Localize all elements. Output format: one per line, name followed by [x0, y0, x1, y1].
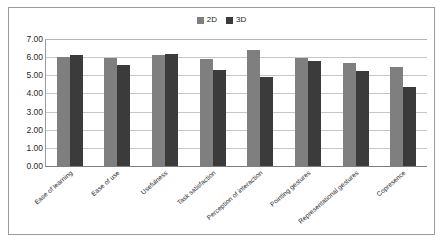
bar-group: [332, 39, 380, 166]
chart-legend: 2D 3D: [9, 14, 434, 26]
bar-3d[interactable]: [403, 87, 416, 166]
x-tick-label: Ease of use: [90, 169, 122, 198]
bar-3d[interactable]: [70, 55, 83, 166]
y-tick-label: 3.00: [26, 107, 43, 116]
bar-3d[interactable]: [308, 61, 321, 166]
chart-frame: 2D 3D 7.006.005.004.003.002.001.000.00 E…: [8, 7, 435, 235]
y-tick-label: 6.00: [26, 53, 43, 62]
bar-2d[interactable]: [152, 55, 165, 166]
bar-3d[interactable]: [213, 70, 226, 166]
x-tick-label: Ease of learning: [33, 169, 74, 206]
bars-layer: [46, 39, 427, 166]
plot-area: 7.006.005.004.003.002.001.000.00: [45, 39, 427, 167]
bar-group: [189, 39, 237, 166]
bar-group: [46, 39, 94, 166]
bar-group: [237, 39, 285, 166]
y-tick-label: 1.00: [26, 143, 43, 152]
legend-entry-2d[interactable]: 2D: [197, 16, 217, 24]
bar-group: [141, 39, 189, 166]
y-tick-label: 2.00: [26, 125, 43, 134]
bar-3d[interactable]: [117, 65, 130, 166]
y-tick-label: 4.00: [26, 89, 43, 98]
legend-label-3d: 3D: [236, 16, 246, 24]
bar-group: [284, 39, 332, 166]
x-tick-label: Copresence: [375, 169, 407, 198]
y-tick-label: 5.00: [26, 71, 43, 80]
y-tick-label: 7.00: [26, 35, 43, 44]
y-tick-label: 0.00: [26, 162, 43, 171]
bar-2d[interactable]: [343, 63, 356, 166]
bar-3d[interactable]: [356, 71, 369, 166]
bar-group: [94, 39, 142, 166]
bar-3d[interactable]: [165, 54, 178, 166]
x-label-slot: Ease of use: [93, 167, 141, 235]
bar-2d[interactable]: [295, 58, 308, 166]
legend-swatch-3d: [226, 17, 233, 24]
x-label-slot: Ease of learning: [45, 167, 93, 235]
bar-2d[interactable]: [57, 57, 70, 166]
bar-3d[interactable]: [260, 77, 273, 166]
bar-2d[interactable]: [390, 67, 403, 166]
legend-entry-3d[interactable]: 3D: [226, 16, 246, 24]
legend-label-2d: 2D: [207, 16, 217, 24]
bar-2d[interactable]: [247, 50, 260, 166]
x-label-slot: Representational gestures: [331, 167, 379, 235]
x-tick-label: Usefulness: [139, 169, 169, 196]
x-axis-labels: Ease of learningEase of useUsefulnessTas…: [45, 167, 426, 235]
bar-2d[interactable]: [104, 58, 117, 166]
x-label-slot: Copresence: [378, 167, 426, 235]
legend-swatch-2d: [197, 17, 204, 24]
bar-group: [379, 39, 427, 166]
bar-2d[interactable]: [200, 59, 213, 166]
